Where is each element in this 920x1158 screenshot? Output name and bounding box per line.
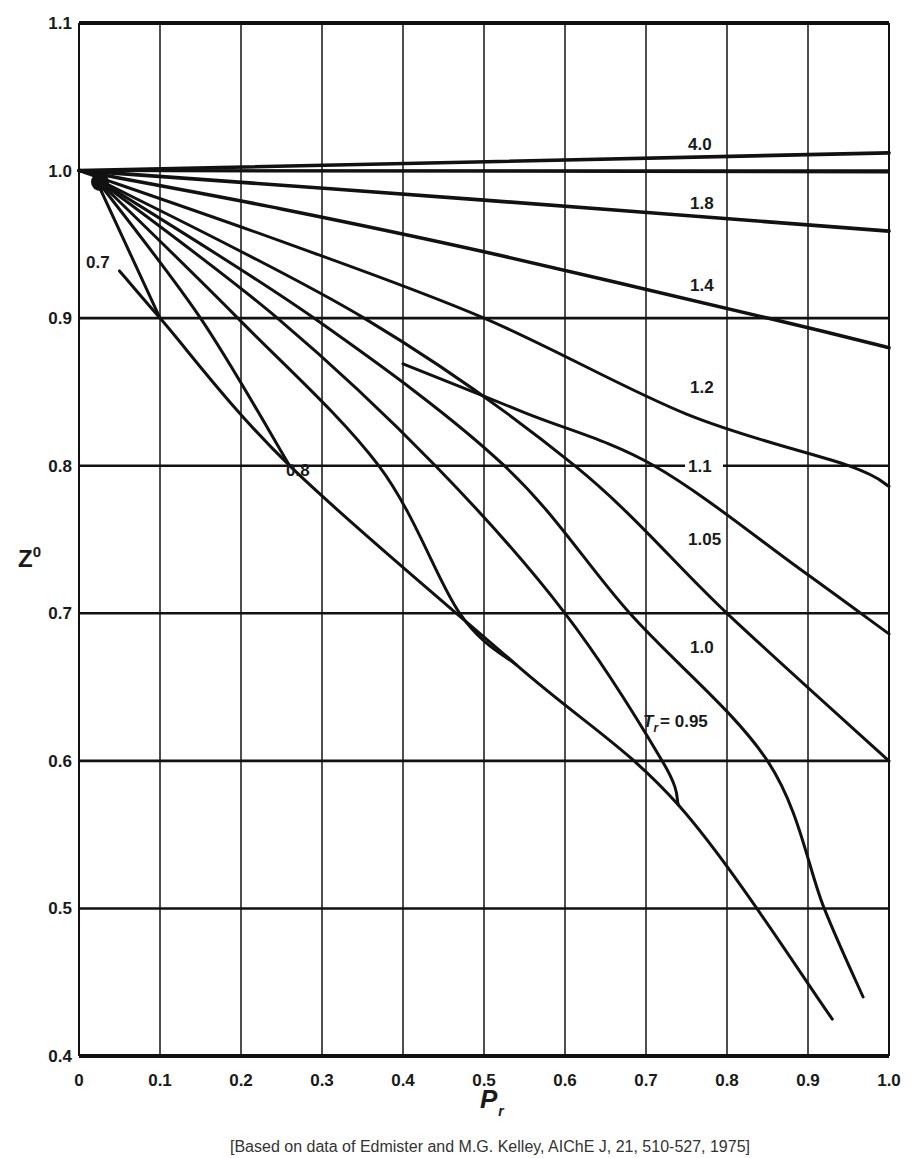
x-tick-label: 0.3 [310,1071,334,1090]
label-tr-1.2: 1.2 [690,378,714,397]
x-tick-label: 0.9 [796,1071,820,1090]
chart: 00.10.20.30.40.50.60.70.80.91.0 0.40.50.… [0,0,920,1158]
label-tr-0.95: Tr= 0.95 [643,712,708,735]
label-tr-1.4: 1.4 [690,276,714,295]
y-tick-label: 0.5 [48,899,72,918]
x-tick-label: 0.2 [229,1071,253,1090]
label-tr-1.8: 1.8 [690,194,714,213]
label-tr-0.7: 0.7 [86,253,110,272]
x-tick-label: 0 [74,1071,83,1090]
y-tick-label: 1.0 [48,162,72,181]
x-tick-label: 0.6 [553,1071,577,1090]
x-tick-label: 0.1 [148,1071,172,1090]
curve-near-unity [79,171,889,172]
curve-tr-0.8 [95,178,289,466]
x-tick-label: 0.7 [634,1071,658,1090]
source-caption: [Based on data of Edmister and M.G. Kell… [230,1138,750,1155]
y-tick-label: 0.7 [48,604,72,623]
y-tick-label: 0.6 [48,752,72,771]
x-tick-label: 0.8 [715,1071,739,1090]
x-tick-label: 0.4 [391,1071,415,1090]
label-tr-1.1: 1.1 [688,457,712,476]
label-tr-1.05: 1.05 [688,530,721,549]
label-tr-0.8: 0.8 [286,461,310,480]
origin-marker [91,173,109,191]
curve-tr-1.05 [95,178,889,761]
label-tr-4.0: 4.0 [688,135,712,154]
x-axis-title: Pr [480,1084,505,1119]
y-axis-ticks: 0.40.50.60.70.80.91.01.1 [48,14,72,1066]
label-tr-1.0: 1.0 [690,638,714,657]
curve-tr-0.95 [95,178,678,805]
y-tick-label: 1.1 [48,14,72,33]
y-axis-title: Z0 [18,543,41,572]
y-tick-label: 0.9 [48,309,72,328]
x-tick-label: 1.0 [877,1071,901,1090]
y-tick-label: 0.8 [48,457,72,476]
y-tick-label: 0.4 [48,1047,72,1066]
curve-tr-1.0 [95,178,863,997]
curve-tr-saturated-vapor [120,271,833,1019]
